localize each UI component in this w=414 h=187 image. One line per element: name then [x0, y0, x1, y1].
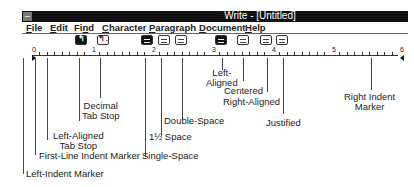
right-aligned-icon[interactable] [260, 35, 272, 45]
leader-centered [243, 58, 244, 81]
label-justified: Justified [266, 118, 301, 128]
ruler-icon-bar: ↰ ↰. [22, 35, 408, 45]
menu-edit[interactable]: Edit [50, 22, 68, 33]
leader-double-space [182, 58, 183, 120]
label-first-line-indent: First-Line Indent Marker [39, 151, 140, 161]
ruler-number: 0 [32, 46, 36, 53]
window-title: Write - [Untitled] [22, 10, 408, 21]
label-double-space: Double-Space [164, 116, 224, 126]
ruler-line [32, 55, 398, 56]
leader-first-line [35, 58, 36, 155]
menu-character[interactable]: Character [102, 22, 146, 33]
ruler-number: 3 [212, 46, 216, 53]
leader-left-tab-stop [79, 58, 80, 121]
menu-paragraph[interactable]: Paragraph [149, 22, 196, 33]
leader-justified [283, 58, 284, 114]
left-aligned-tab-icon[interactable]: ↰ [75, 35, 87, 45]
label-left-indent: Left-Indent Marker [26, 169, 104, 179]
label-left-aligned-tab: Left-AlignedTab Stop [53, 131, 104, 151]
leader-single-space [145, 58, 146, 157]
single-space-icon[interactable] [141, 35, 153, 45]
decimal-tab-icon[interactable]: ↰. [97, 35, 109, 45]
label-decimal-tab: DecimalTab Stop [82, 101, 120, 121]
leader-left-indent [23, 58, 24, 174]
ruler-number: 2 [152, 46, 156, 53]
ruler-number: 4 [272, 46, 276, 53]
left-aligned-icon[interactable] [215, 35, 227, 45]
right-indent-marker[interactable] [400, 55, 404, 61]
centered-icon[interactable] [237, 35, 249, 45]
title-bar: Write - [Untitled] [22, 11, 408, 22]
label-right-aligned: Right-Aligned [223, 97, 280, 107]
label-centered: Centered [224, 86, 263, 96]
leader-right-aligned [267, 58, 268, 92]
double-space-icon[interactable] [175, 35, 187, 45]
ruler-number: 5 [332, 46, 336, 53]
ruler-number: 6 [400, 46, 404, 53]
menu-document[interactable]: Document [199, 22, 245, 33]
one-half-space-icon[interactable] [158, 35, 170, 45]
menu-file[interactable]: File [26, 22, 42, 33]
label-single-space: Single-Space [142, 151, 199, 161]
leader-right-indent [371, 58, 372, 90]
label-one-half-space: 1½ Space [149, 132, 192, 142]
leader-left-tab [47, 58, 48, 140]
justified-icon[interactable] [276, 35, 288, 45]
menu-help[interactable]: Help [245, 22, 266, 33]
label-right-indent: Right IndentMarker [344, 92, 395, 112]
leader-one-half [161, 58, 162, 136]
menu-find[interactable]: Find [74, 22, 94, 33]
ruler-number: 1 [92, 46, 96, 53]
write-window: Write - [Untitled] File Edit Find Charac… [22, 11, 408, 61]
menu-bar: File Edit Find Character Paragraph Docum… [22, 22, 408, 34]
leader-decimal-tab [100, 58, 101, 98]
